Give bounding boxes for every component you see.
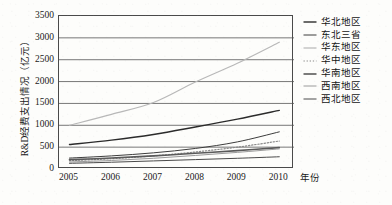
legend-item-6[interactable]: 西北地区 — [303, 93, 389, 106]
x-tick-label: 2009 — [216, 171, 256, 183]
plot-canvas — [59, 16, 294, 169]
legend-swatch-icon — [303, 82, 317, 90]
x-axis-tick-labels: 200520062007200820092010 — [58, 171, 293, 185]
line-chart: R&D经费支出情况（亿元） 05001000150020002500300035… — [0, 0, 392, 205]
y-tick-label: 3000 — [14, 32, 54, 42]
x-tick-label: 2006 — [90, 171, 130, 183]
y-tick-label: 2500 — [14, 54, 54, 64]
legend-item-4[interactable]: 华南地区 — [303, 67, 389, 80]
legend-label: 华南地区 — [321, 68, 361, 79]
y-tick-label: 3500 — [14, 10, 54, 20]
x-tick-label: 2008 — [174, 171, 214, 183]
legend-item-5[interactable]: 西南地区 — [303, 80, 389, 93]
legend-swatch-icon — [303, 95, 317, 103]
series-lines — [69, 42, 279, 163]
x-tick-label: 2005 — [48, 171, 88, 183]
legend-swatch-icon — [303, 70, 317, 78]
legend-label: 华北地区 — [321, 17, 361, 28]
plot-area — [58, 15, 293, 168]
series-line-2 — [69, 42, 279, 125]
legend-item-0[interactable]: 华北地区 — [303, 16, 389, 29]
legend-label: 西南地区 — [321, 81, 361, 92]
legend-item-2[interactable]: 华东地区 — [303, 42, 389, 55]
y-tick-label: 500 — [14, 141, 54, 151]
legend-item-1[interactable]: 东北三省 — [303, 29, 389, 42]
legend-label: 东北三省 — [321, 30, 361, 41]
y-axis-tick-labels: 0500100015002000250030003500 — [14, 15, 54, 168]
chart-legend: 华北地区东北三省华东地区华中地区华南地区西南地区西北地区 — [303, 16, 389, 106]
legend-swatch-icon — [303, 57, 317, 65]
y-tick-label: 1000 — [14, 119, 54, 129]
y-tick-label: 1500 — [14, 97, 54, 107]
legend-label: 西北地区 — [321, 94, 361, 105]
x-axis-title: 年份 — [300, 172, 320, 184]
legend-swatch-icon — [303, 31, 317, 39]
legend-label: 华中地区 — [321, 55, 361, 66]
legend-label: 华东地区 — [321, 42, 361, 53]
legend-item-3[interactable]: 华中地区 — [303, 54, 389, 67]
y-tick-label: 2000 — [14, 76, 54, 86]
x-tick-label: 2007 — [132, 171, 172, 183]
legend-swatch-icon — [303, 18, 317, 26]
x-tick-label: 2010 — [258, 171, 298, 183]
legend-swatch-icon — [303, 44, 317, 52]
